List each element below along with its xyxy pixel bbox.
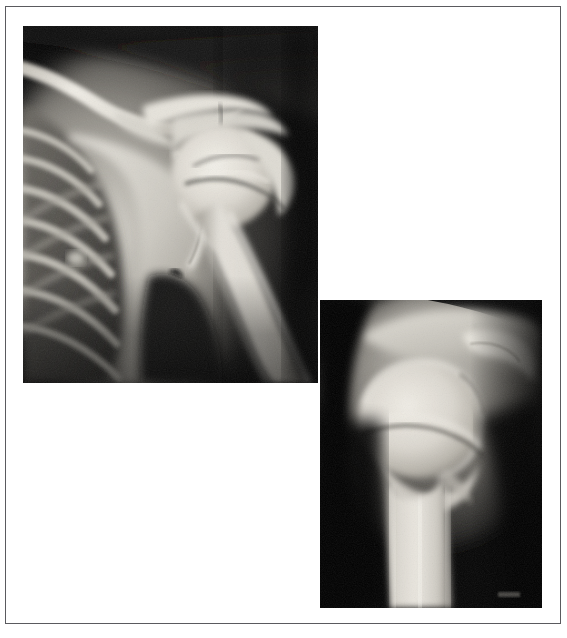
anteroposterior-shoulder-radiograph — [23, 26, 318, 383]
lateral-shoulder-radiograph — [320, 300, 542, 608]
radiograph-figure — [0, 0, 567, 638]
